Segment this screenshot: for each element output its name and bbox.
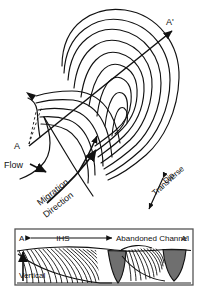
point-bar-figure: A A' Flow Migration Direction Dip Transv…	[0, 0, 207, 294]
section-dashed-guides	[29, 106, 42, 144]
label-flow: Flow	[4, 160, 24, 170]
flow-arrow	[30, 164, 46, 172]
label-transverse: Transverse	[150, 164, 186, 198]
scroll-bar-arcs	[62, 9, 179, 180]
label-section-end-aprime: A'	[166, 17, 174, 27]
xsec-label-abandoned-channel: Abandoned Channel	[116, 234, 189, 243]
xsec-label-a: A	[19, 234, 25, 243]
xsec-label-aprime: A'	[181, 234, 188, 243]
label-section-start-a: A	[14, 141, 20, 151]
section-line-a-aprime	[29, 31, 172, 146]
xsec-label-vertical: Vertical	[19, 271, 45, 280]
xsec-label-ihs: IHS	[56, 234, 69, 243]
